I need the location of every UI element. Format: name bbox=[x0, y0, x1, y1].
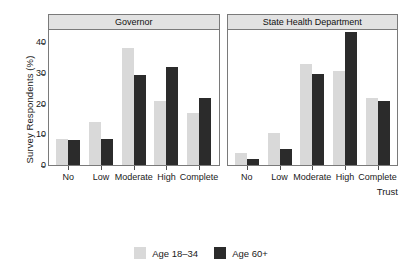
x-tick-mark bbox=[247, 166, 248, 170]
panel-container: Governor State Health Department bbox=[48, 14, 398, 166]
x-tick-mark bbox=[345, 166, 346, 170]
legend-swatch-icon-age-18-34 bbox=[134, 247, 146, 259]
bar bbox=[268, 133, 280, 166]
bar bbox=[235, 153, 247, 165]
bar-group bbox=[366, 30, 390, 165]
bar bbox=[134, 75, 146, 165]
panel-title-governor: Governor bbox=[48, 14, 220, 29]
bar bbox=[166, 67, 178, 165]
legend-item-age-18-34: Age 18–34 bbox=[134, 247, 198, 259]
bar bbox=[101, 139, 113, 165]
plot-area-state-health-department bbox=[227, 29, 399, 166]
chart-figure: Survey Respondents (%) 010203040 Governo… bbox=[0, 0, 402, 272]
x-tick-mark bbox=[199, 166, 200, 170]
x-tick-label: High bbox=[336, 172, 355, 182]
bar bbox=[333, 71, 345, 165]
bar bbox=[345, 32, 357, 165]
panel-title-state-health-department: State Health Department bbox=[227, 14, 399, 29]
x-axis-title: Trust bbox=[0, 186, 398, 197]
x-tick-label: Low bbox=[93, 172, 110, 182]
x-tick-mark bbox=[312, 166, 313, 170]
legend-swatch-icon-age-60-plus bbox=[214, 247, 226, 259]
bar-group bbox=[333, 30, 357, 165]
y-axis: 010203040 bbox=[0, 0, 46, 272]
bar-group bbox=[235, 30, 259, 165]
x-tick-mark bbox=[101, 166, 102, 170]
bar bbox=[154, 101, 166, 165]
bar bbox=[280, 149, 292, 165]
bar bbox=[247, 159, 259, 165]
bar-group bbox=[56, 30, 80, 165]
x-tick-mark bbox=[166, 166, 167, 170]
x-tick-label: No bbox=[63, 172, 75, 182]
panel-state-health-department: State Health Department bbox=[227, 14, 399, 166]
x-tick-mark bbox=[280, 166, 281, 170]
bar bbox=[366, 98, 378, 165]
bar bbox=[199, 98, 211, 165]
x-tick-label: No bbox=[241, 172, 253, 182]
bar-group bbox=[300, 30, 324, 165]
x-tick-mark bbox=[378, 166, 379, 170]
x-tick-mark bbox=[134, 166, 135, 170]
plot-area-governor bbox=[48, 29, 220, 166]
y-tick-mark bbox=[41, 43, 45, 44]
bar-group bbox=[187, 30, 211, 165]
x-tick-label: Complete bbox=[358, 172, 397, 182]
x-tick-label: Moderate bbox=[293, 172, 331, 182]
x-tick-label: Moderate bbox=[115, 172, 153, 182]
legend: Age 18–34 Age 60+ bbox=[0, 247, 402, 259]
bar bbox=[56, 139, 68, 165]
y-tick-mark bbox=[41, 135, 45, 136]
bar bbox=[122, 48, 134, 165]
legend-label-age-18-34: Age 18–34 bbox=[152, 248, 198, 259]
x-tick-label: Complete bbox=[180, 172, 219, 182]
bar bbox=[68, 140, 80, 165]
bar bbox=[300, 64, 312, 166]
y-tick-mark bbox=[41, 105, 45, 106]
bar bbox=[312, 74, 324, 165]
y-tick-mark bbox=[41, 74, 45, 75]
bar bbox=[187, 113, 199, 165]
bar-group bbox=[89, 30, 113, 165]
bar-group bbox=[268, 30, 292, 165]
bar bbox=[378, 101, 390, 165]
panel-governor: Governor bbox=[48, 14, 220, 166]
x-tick-label: High bbox=[157, 172, 176, 182]
bar-group bbox=[122, 30, 146, 165]
bar-group bbox=[154, 30, 178, 165]
x-tick-mark bbox=[68, 166, 69, 170]
legend-label-age-60-plus: Age 60+ bbox=[232, 248, 268, 259]
x-tick-label: Low bbox=[271, 172, 288, 182]
legend-item-age-60-plus: Age 60+ bbox=[214, 247, 268, 259]
bar bbox=[89, 122, 101, 165]
y-tick-mark bbox=[41, 166, 45, 167]
